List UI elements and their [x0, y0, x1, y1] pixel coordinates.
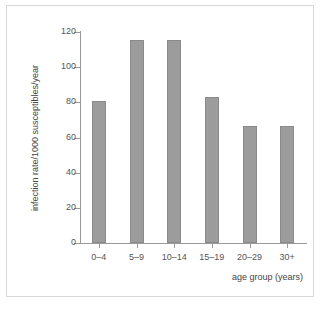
- y-axis-tick-label: 100: [61, 60, 76, 73]
- y-axis-tick-label: 60: [66, 131, 76, 144]
- y-axis-tick-label: 0: [71, 236, 76, 249]
- y-axis-tick-label: 20: [66, 201, 76, 214]
- y-axis-tick-label: 40: [66, 166, 76, 179]
- x-axis-tick-label: 5–9: [129, 251, 144, 263]
- x-axis-tick-label: 20–29: [237, 251, 262, 263]
- bar: [167, 40, 181, 243]
- x-axis-tick-mark: [174, 243, 175, 248]
- x-axis-tick-label: 15–19: [199, 251, 224, 263]
- bar: [205, 97, 219, 243]
- y-axis-tick-label: 120: [61, 25, 76, 38]
- bar: [243, 126, 257, 243]
- x-axis-tick-label: 0–4: [91, 251, 106, 263]
- x-axis-tick-label: 30+: [280, 251, 295, 263]
- x-axis-tick-mark: [137, 243, 138, 248]
- x-axis-tick-mark: [212, 243, 213, 248]
- x-axis-line: [80, 243, 307, 244]
- y-axis-title: infection rate/1000 susceptibles/year: [28, 32, 42, 243]
- y-axis-tick-label: 80: [66, 95, 76, 108]
- plot-area: 020406080100120: [80, 32, 306, 243]
- x-axis-tick-mark: [99, 243, 100, 248]
- x-axis-title: age group (years): [80, 272, 307, 282]
- x-axis-tick-mark: [250, 243, 251, 248]
- bar: [92, 101, 106, 243]
- x-axis-tick-label: 10–14: [162, 251, 187, 263]
- y-axis-title-text: infection rate/1000 susceptibles/year: [30, 64, 40, 210]
- bar: [130, 40, 144, 243]
- bar: [280, 126, 294, 243]
- x-axis-tick-mark: [287, 243, 288, 248]
- bar-chart-figure: infection rate/1000 susceptibles/year 02…: [0, 0, 321, 310]
